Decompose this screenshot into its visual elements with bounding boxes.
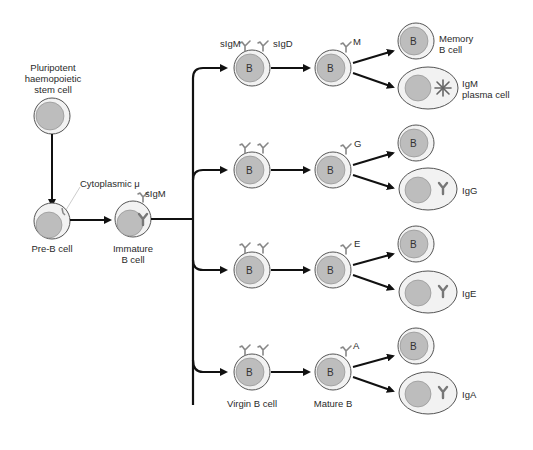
ige-label: IgE (462, 288, 476, 299)
memory-b-row-2: B (398, 125, 434, 161)
mature-b-row-1: B (315, 42, 351, 86)
plasma-cell-igg (399, 168, 457, 210)
virgin-b-cell-label: Virgin B cell (227, 398, 277, 409)
iga-label: IgA (462, 389, 476, 400)
igg-label: IgG (462, 185, 477, 196)
svg-text:B: B (410, 36, 417, 47)
plasma-cell-ige (399, 271, 457, 313)
svg-text:B: B (410, 341, 417, 352)
svg-text:B: B (246, 367, 253, 378)
memory-b-row-3: B (398, 226, 434, 262)
virgin-b-row-2: B (234, 143, 270, 188)
isotype-a-label: A (353, 340, 359, 351)
stem-cell (34, 98, 70, 134)
svg-text:B: B (327, 265, 334, 276)
isotype-e-label: E (354, 238, 360, 249)
stem-cell-label: Pluripotent haemopoietic stem cell (25, 62, 82, 95)
svg-text:B: B (327, 165, 334, 176)
pentamer-igm-icon (435, 80, 451, 96)
svg-text:B: B (246, 265, 253, 276)
svg-text:B: B (327, 367, 334, 378)
nucleus-letter: B (246, 63, 253, 74)
cytoplasmic-mu-label: Cytoplasmic μ (80, 178, 140, 189)
virgin-sigm-label: sIgM (220, 38, 241, 49)
pre-b-cell (34, 187, 80, 239)
svg-text:B: B (246, 165, 253, 176)
memory-b-cell-label: Memory B cell (439, 33, 473, 55)
mature-b-row-4: B (315, 346, 351, 390)
isotype-m-label: M (353, 36, 361, 47)
svg-text:B: B (410, 239, 417, 250)
mature-b-row-2: B (315, 144, 351, 188)
virgin-b-row-3: B (234, 243, 270, 288)
memory-b-row-4: B (398, 328, 434, 364)
isotype-g-label: G (354, 138, 361, 149)
mature-b-row-3: B (315, 244, 351, 288)
svg-text:B: B (410, 138, 417, 149)
igm-plasma-cell-label: IgM plasma cell (462, 78, 510, 100)
virgin-b-row-4: B (234, 345, 270, 390)
plasma-cell-igm (398, 67, 458, 109)
branching-trunk (193, 68, 226, 405)
mature-b-label: Mature B (314, 398, 353, 409)
immature-b-cell-label: Immature B cell (113, 243, 153, 265)
svg-text:B: B (327, 63, 334, 74)
virgin-sigd-label: sIgD (273, 38, 293, 49)
plasma-cell-iga (399, 372, 457, 414)
memory-b-row-1: B (398, 23, 434, 59)
pre-b-cell-label: Pre-B cell (31, 243, 72, 254)
immature-sigm-label: sIgM (145, 188, 166, 199)
arrows-virgin-to-mature (271, 68, 309, 372)
